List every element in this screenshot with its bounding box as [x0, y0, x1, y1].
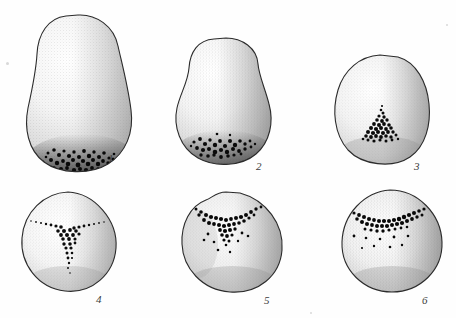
- figure-5-drawing: [178, 190, 288, 302]
- figure-2: 2: [170, 36, 278, 170]
- figure-3-drawing: [330, 52, 435, 172]
- figure-6-drawing: [338, 188, 448, 302]
- figure-2-drawing: [170, 36, 278, 170]
- figure-4-label: 4: [96, 293, 102, 305]
- paper-speck: [310, 312, 312, 314]
- paper-speck: [446, 24, 448, 26]
- figure-5-label: 5: [264, 294, 270, 306]
- figure-3-label: 3: [414, 160, 420, 172]
- paper-speck: [6, 62, 9, 65]
- figure-6-label: 6: [422, 294, 428, 306]
- figure-2-label: 2: [256, 160, 262, 172]
- figure-5: 5: [178, 190, 288, 302]
- figure-6: 6: [338, 188, 448, 302]
- figure-4-drawing: [18, 190, 120, 300]
- figure-3: 3: [330, 52, 435, 172]
- illustration-plate: 1: [0, 0, 456, 318]
- figure-1: 1: [18, 12, 146, 174]
- figure-4: 4: [18, 190, 120, 300]
- figure-1-label: 1: [108, 152, 114, 164]
- figure-1-drawing: [18, 12, 146, 174]
